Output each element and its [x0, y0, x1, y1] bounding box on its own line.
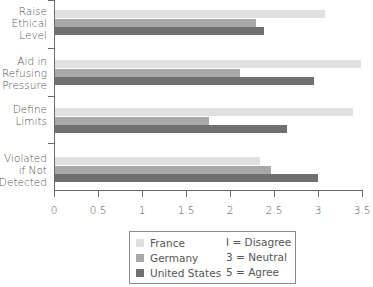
- bar-united-states: [55, 77, 314, 85]
- bar-france: [55, 10, 325, 18]
- x-axis-tick-label: 3.5: [354, 204, 371, 216]
- category-label: Violated if Not Detected: [0, 152, 47, 188]
- x-axis-tick: [54, 190, 55, 197]
- y-axis-separator-tick: [48, 0, 55, 1]
- x-axis-tick-label: 0: [51, 204, 58, 216]
- x-axis-tick-label: 1: [139, 204, 146, 216]
- x-axis-tick: [362, 190, 363, 197]
- legend-note-neutral: 3 = Neutral: [226, 251, 287, 263]
- x-axis-tick: [98, 190, 99, 197]
- legend: France Germany United States I = Disagre…: [129, 231, 296, 284]
- x-axis-tick-label: 2: [227, 204, 234, 216]
- legend-note-agree: 5 = Agree: [226, 266, 279, 278]
- legend-swatch-france: [136, 239, 144, 247]
- category-label: Define Limits: [13, 103, 47, 127]
- x-axis-tick-label: 3: [315, 204, 322, 216]
- bar-france: [55, 60, 361, 68]
- bar-united-states: [55, 125, 287, 133]
- x-axis-tick-label: 0.5: [90, 204, 107, 216]
- x-axis-tick: [142, 190, 143, 197]
- bar-germany: [55, 19, 256, 27]
- legend-swatch-united-states: [136, 269, 144, 277]
- bar-united-states: [55, 27, 264, 35]
- bar-chart: Raise Ethical LevelAid in Refusing Press…: [0, 0, 373, 287]
- legend-note-disagree: I = Disagree: [226, 236, 291, 248]
- category-label: Aid in Refusing Pressure: [2, 55, 47, 91]
- bar-germany: [55, 69, 240, 77]
- y-axis-separator-tick: [48, 143, 55, 144]
- x-axis-tick-label: 2.5: [266, 204, 283, 216]
- x-axis-tick: [274, 190, 275, 197]
- bar-united-states: [55, 174, 318, 182]
- bar-france: [55, 157, 260, 165]
- legend-label: United States: [150, 267, 221, 279]
- legend-swatch-germany: [136, 254, 144, 262]
- x-axis-line: [54, 190, 363, 191]
- legend-label: Germany: [150, 252, 198, 264]
- bar-france: [55, 108, 353, 116]
- legend-entry-united-states: United States: [136, 265, 221, 280]
- bar-germany: [55, 166, 271, 174]
- x-axis-tick: [230, 190, 231, 197]
- legend-entry-france: France: [136, 235, 185, 250]
- bar-germany: [55, 117, 209, 125]
- y-axis-separator-tick: [48, 48, 55, 49]
- x-axis-tick: [186, 190, 187, 197]
- category-label: Raise Ethical Level: [12, 5, 47, 41]
- x-axis-tick-label: 1.5: [178, 204, 195, 216]
- legend-entry-germany: Germany: [136, 250, 198, 265]
- legend-label: France: [150, 237, 185, 249]
- y-axis-separator-tick: [48, 96, 55, 97]
- x-axis-tick: [318, 190, 319, 197]
